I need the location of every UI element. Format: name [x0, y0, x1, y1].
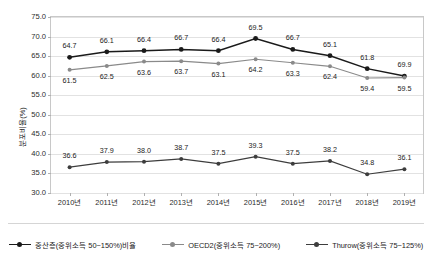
data-point-label: 63.1: [211, 71, 225, 78]
data-point-marker: [216, 162, 220, 166]
data-point-label: 37.5: [211, 149, 225, 156]
data-point-label: 61.5: [63, 77, 77, 84]
data-point-label: 69.5: [249, 24, 263, 31]
data-point-marker: [179, 47, 184, 52]
data-point-marker: [67, 55, 72, 60]
data-point-marker: [365, 76, 369, 80]
data-point-label: 37.5: [286, 149, 300, 156]
data-point-marker: [402, 76, 406, 80]
x-axis-tick-mark: [218, 193, 219, 196]
data-point-marker: [254, 155, 258, 159]
data-point-marker: [365, 66, 370, 71]
y-axis-title: 분포비율(%): [16, 107, 27, 147]
data-point-label: 59.5: [397, 85, 411, 92]
x-axis-tick-label: 2012년: [132, 199, 155, 206]
data-point-label: 34.8: [360, 160, 374, 167]
data-point-marker: [290, 47, 295, 52]
data-point-marker: [104, 49, 109, 54]
x-axis-tick-label: 2013년: [169, 199, 192, 206]
data-point-marker: [216, 62, 220, 66]
data-point-marker: [328, 159, 332, 163]
data-point-marker: [254, 57, 258, 61]
x-axis-tick-mark: [330, 193, 331, 196]
data-point-marker: [291, 61, 295, 65]
legend-item[interactable]: OECD2(중위소득 75~200%): [162, 239, 280, 250]
plot-area: 30.035.040.045.050.055.060.065.070.075.0…: [50, 16, 424, 194]
line-chart: 분포비율(%) 30.035.040.045.050.055.060.065.0…: [0, 0, 432, 254]
legend-label: Thurow(중위소득 75~125%): [332, 239, 423, 250]
data-point-marker: [142, 48, 147, 53]
data-point-marker: [253, 36, 258, 41]
data-point-label: 37.9: [100, 147, 114, 154]
legend-marker-icon: [162, 241, 184, 249]
data-point-label: 62.5: [100, 73, 114, 80]
data-point-label: 38.0: [137, 147, 151, 154]
x-axis-tick-mark: [404, 193, 405, 196]
data-point-marker: [68, 68, 72, 72]
data-point-marker: [142, 160, 146, 164]
data-point-marker: [216, 48, 221, 53]
legend-item[interactable]: 중산층(중위소득 50~150%)비율: [9, 239, 136, 250]
x-axis-tick-label: 2018년: [355, 199, 378, 206]
legend-item[interactable]: Thurow(중위소득 75~125%): [306, 239, 423, 250]
data-point-label: 66.1: [100, 37, 114, 44]
y-axis-tick-label: 70.0: [31, 33, 46, 41]
data-point-marker: [402, 167, 406, 171]
y-axis-tick-label: 60.0: [31, 72, 46, 80]
x-axis-tick-mark: [293, 193, 294, 196]
data-point-marker: [328, 53, 333, 58]
data-point-label: 64.2: [249, 67, 263, 74]
data-point-marker: [365, 172, 369, 176]
data-point-marker: [179, 59, 183, 63]
data-point-marker: [179, 157, 183, 161]
data-point-label: 69.9: [397, 61, 411, 68]
data-point-label: 36.6: [63, 153, 77, 160]
series-line: [70, 39, 405, 77]
data-point-marker: [105, 160, 109, 164]
x-axis-tick-label: 2010년: [58, 199, 81, 206]
chart-legend: 중산층(중위소득 50~150%)비율OECD2(중위소득 75~200%)Th…: [0, 233, 432, 250]
data-point-label: 62.4: [323, 74, 337, 81]
y-axis-tick-mark: [48, 193, 51, 194]
y-axis-tick-label: 65.0: [31, 52, 46, 60]
data-point-label: 36.1: [397, 155, 411, 162]
data-point-label: 63.7: [174, 69, 188, 76]
y-axis-tick-label: 45.0: [31, 131, 46, 139]
legend-marker-icon: [306, 241, 328, 249]
legend-divider: [8, 223, 424, 224]
data-point-label: 63.3: [286, 70, 300, 77]
data-point-label: 65.1: [323, 41, 337, 48]
x-axis-tick-label: 2011년: [95, 199, 118, 206]
data-point-label: 64.7: [63, 43, 77, 50]
data-point-label: 59.4: [360, 85, 374, 92]
x-axis-tick-mark: [256, 193, 257, 196]
data-point-label: 63.6: [137, 69, 151, 76]
data-point-label: 38.2: [323, 146, 337, 153]
x-axis-tick-mark: [367, 193, 368, 196]
legend-label: OECD2(중위소득 75~200%): [188, 239, 280, 250]
series-line: [70, 59, 405, 78]
data-point-label: 66.7: [174, 35, 188, 42]
data-point-marker: [291, 162, 295, 166]
legend-marker-icon: [9, 241, 31, 249]
x-axis-tick-label: 2015년: [244, 199, 267, 206]
data-point-label: 39.3: [249, 142, 263, 149]
data-point-label: 66.4: [137, 36, 151, 43]
y-axis-tick-label: 55.0: [31, 91, 46, 99]
x-axis-tick-mark: [107, 193, 108, 196]
data-point-marker: [142, 60, 146, 64]
y-axis-tick-label: 30.0: [31, 189, 46, 197]
y-axis-tick-label: 75.0: [31, 13, 46, 21]
data-point-label: 66.4: [211, 36, 225, 43]
y-axis-tick-label: 50.0: [31, 111, 46, 119]
x-axis-tick-mark: [70, 193, 71, 196]
data-point-marker: [68, 165, 72, 169]
data-point-label: 66.7: [286, 35, 300, 42]
x-axis-tick-mark: [181, 193, 182, 196]
data-point-label: 38.7: [174, 144, 188, 151]
x-axis-tick-mark: [144, 193, 145, 196]
data-point-marker: [328, 64, 332, 68]
x-axis-tick-label: 2016년: [281, 199, 304, 206]
data-point-label: 61.8: [360, 54, 374, 61]
legend-label: 중산층(중위소득 50~150%)비율: [35, 239, 136, 250]
